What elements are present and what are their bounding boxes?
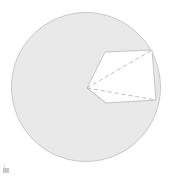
geometry-diagram bbox=[0, 0, 173, 176]
figure-canvas bbox=[0, 0, 173, 176]
corner-mark bbox=[3, 168, 9, 173]
